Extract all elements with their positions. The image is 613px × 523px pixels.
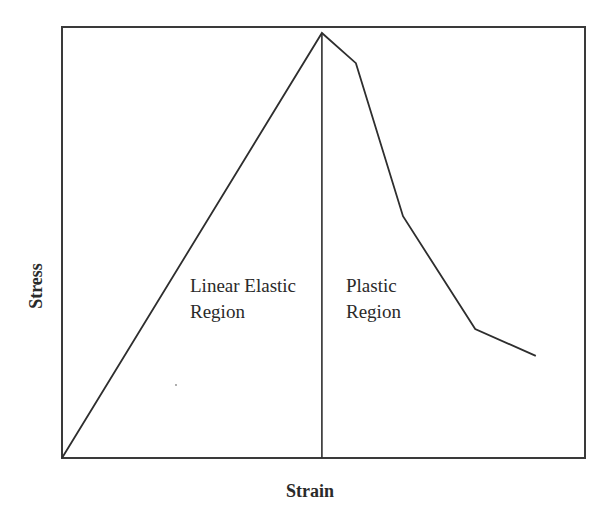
x-axis-label: Strain <box>286 481 334 501</box>
stress-strain-chart: Linear Elastic Region Plastic Region Str… <box>0 0 613 523</box>
y-axis-label: Stress <box>26 263 46 309</box>
plot-frame <box>62 27 585 458</box>
elastic-label-line2: Region <box>190 301 245 322</box>
scan-speck <box>175 384 177 386</box>
elastic-label-line1: Linear Elastic <box>190 275 296 296</box>
elastic-region-label: Linear Elastic Region <box>190 275 301 322</box>
plastic-label-line2: Region <box>346 301 401 322</box>
plastic-label-line1: Plastic <box>346 275 397 296</box>
stress-strain-curve <box>62 33 536 458</box>
plastic-region-label: Plastic Region <box>346 275 401 322</box>
